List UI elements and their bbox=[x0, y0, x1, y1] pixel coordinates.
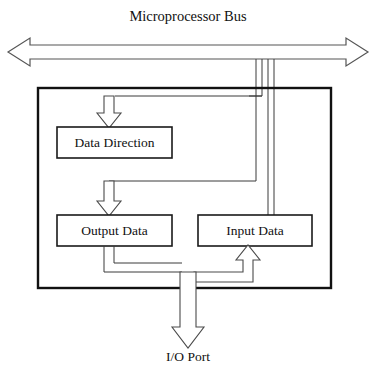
output-data-return-left bbox=[104, 246, 182, 272]
diagram-title: Microprocessor Bus bbox=[129, 8, 247, 24]
output-data-return-right bbox=[114, 246, 182, 263]
arrow-to-output-data bbox=[97, 181, 121, 216]
arrow-to-input-data bbox=[194, 245, 260, 282]
diagram-canvas: Microprocessor Bus Data Direction Output… bbox=[0, 0, 376, 374]
bus-branch-ddr-line bbox=[115, 59, 262, 96]
block-data-direction-label: Data Direction bbox=[75, 135, 155, 150]
microprocessor-bus-arrow bbox=[8, 38, 368, 66]
block-input-data-label: Input Data bbox=[226, 223, 283, 238]
io-port-arrow bbox=[172, 272, 204, 348]
arrow-to-data-direction bbox=[97, 96, 121, 128]
bus-branch-left-line bbox=[109, 59, 256, 181]
peripheral-outer-frame bbox=[38, 88, 331, 288]
io-port-block-diagram: Microprocessor Bus Data Direction Output… bbox=[0, 0, 376, 374]
io-port-label: I/O Port bbox=[166, 349, 210, 364]
block-output-data-label: Output Data bbox=[81, 223, 147, 238]
